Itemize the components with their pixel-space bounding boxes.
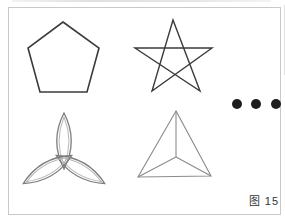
ellipsis-dot-1	[251, 99, 261, 109]
trefoil-petal-outer-1	[53, 149, 109, 190]
pentagon-shape	[28, 22, 99, 92]
triangle-shape	[138, 111, 211, 177]
figure-caption: 图 15	[249, 194, 279, 208]
figure-canvas	[0, 0, 285, 224]
star-shape	[135, 20, 212, 91]
ellipsis-dot-2	[271, 99, 281, 109]
figure-panel: 图 15	[0, 0, 285, 224]
ellipsis-dot-0	[232, 99, 242, 109]
trefoil-petal-outer-2	[20, 149, 76, 190]
